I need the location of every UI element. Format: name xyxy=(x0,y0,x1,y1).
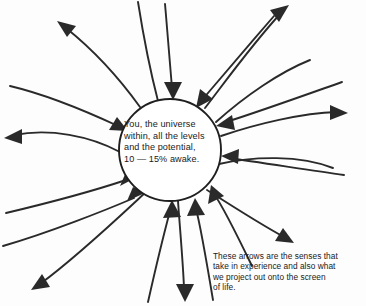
outward-arrow-top-left-tail xyxy=(138,2,158,101)
outward-arrow-upper-left xyxy=(57,21,140,107)
inward-arrow-top-right xyxy=(196,16,274,108)
inward-arrow-bottom-center xyxy=(148,200,181,302)
inward-arrow-lower-left xyxy=(6,172,137,213)
outward-arrow-upper-right xyxy=(205,5,289,108)
center-circle-text: You, the universe within, all the levels… xyxy=(124,119,220,165)
diagram-canvas: You, the universe within, all the levels… xyxy=(0,0,366,306)
caption-line-3: we project out onto the screen xyxy=(213,272,365,282)
caption-text: These arrows are the senses that take in… xyxy=(213,251,365,293)
center-text-line-1: You, the universe xyxy=(124,119,220,131)
center-text-line-3: and the potential, xyxy=(124,142,220,154)
outward-arrow-left xyxy=(4,129,120,152)
center-text-line-4: 10 — 15% awake. xyxy=(124,154,220,166)
inward-arrow-right xyxy=(221,149,344,175)
inward-arrow-top-center xyxy=(164,4,182,100)
caption-line-4: of life. xyxy=(213,282,365,292)
outward-arrow-lower-left xyxy=(31,191,147,290)
inward-arrow-upper-left xyxy=(10,86,128,131)
outward-arrow-upper-right-tail xyxy=(216,60,310,122)
caption-line-2: take in experience and also what xyxy=(213,261,365,271)
center-text-line-2: within, all the levels xyxy=(124,131,220,143)
outward-arrow-right xyxy=(221,105,348,136)
caption-line-1: These arrows are the senses that xyxy=(213,251,365,261)
